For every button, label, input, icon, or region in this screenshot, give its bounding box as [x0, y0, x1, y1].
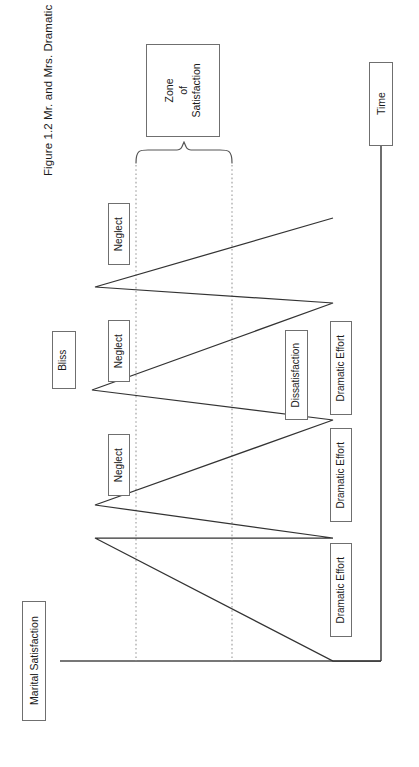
axis-label-marital-satisfaction: Marital Satisfaction [22, 601, 46, 721]
label-neglect-3: Neglect [108, 434, 130, 496]
label-dramatic-effort-1-text: Dramatic Effort [335, 335, 348, 402]
label-bliss: Bliss [52, 331, 76, 389]
axis-label-time: Time [369, 62, 393, 146]
label-dissatisfaction-text: Dissatisfaction [290, 343, 303, 407]
zone-brace [136, 142, 232, 163]
label-neglect-1: Neglect [108, 203, 130, 265]
axis-label-marital-satisfaction-text: Marital Satisfaction [27, 617, 40, 706]
label-neglect-3-text: Neglect [113, 448, 126, 482]
label-dissatisfaction: Dissatisfaction [285, 330, 308, 420]
zone-of-satisfaction-text: Zone of Satisfaction [163, 63, 204, 117]
label-neglect-2: Neglect [108, 320, 130, 382]
label-neglect-2-text: Neglect [113, 334, 126, 368]
zone-of-satisfaction-box: Zone of Satisfaction [146, 44, 220, 137]
label-neglect-1-text: Neglect [113, 217, 126, 251]
label-bliss-text: Bliss [58, 349, 71, 370]
label-dramatic-effort-3-text: Dramatic Effort [335, 557, 348, 624]
label-dramatic-effort-1: Dramatic Effort [330, 321, 352, 415]
label-dramatic-effort-3: Dramatic Effort [330, 543, 352, 637]
axis-label-time-text: Time [374, 93, 387, 116]
figure-container: Figure 1.2 Mr. and Mrs. Dramatic Marital… [0, 0, 419, 767]
label-dramatic-effort-2: Dramatic Effort [330, 428, 352, 522]
label-dramatic-effort-2-text: Dramatic Effort [335, 442, 348, 509]
